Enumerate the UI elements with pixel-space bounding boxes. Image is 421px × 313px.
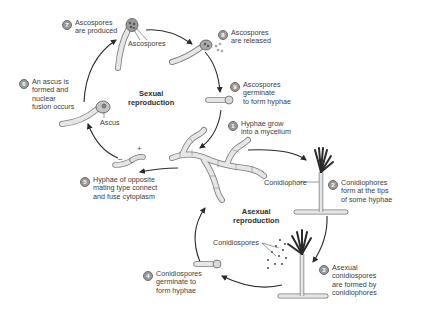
arrow-5-to-6 xyxy=(88,124,118,158)
step-number-badge: 8 xyxy=(218,30,228,40)
conidiophore-label: Conidiophore xyxy=(264,179,307,187)
minus-mating-sign: − xyxy=(118,156,123,164)
arrow-3-to-4 xyxy=(222,276,282,287)
arrow-8-to-9 xyxy=(205,52,220,92)
ascus-label: Ascus xyxy=(100,119,120,127)
step-3: 3 Asexual conidiospores are formed by co… xyxy=(319,264,377,297)
step-6: 6 An ascus is formed and nuclear fusion … xyxy=(19,78,74,111)
arrow-2-to-3 xyxy=(313,216,327,262)
step-9: 9 Ascospores germinate to form hyphae xyxy=(230,81,291,106)
step-description: Ascospores are released xyxy=(231,29,271,46)
asexual-reproduction-title: Asexual reproduction xyxy=(233,208,279,225)
plus-mating-sign: + xyxy=(137,145,142,153)
step-2: 2 Conidiophores form at the tips of some… xyxy=(328,179,392,204)
ascus-releasing-spores xyxy=(172,40,223,62)
step-description: Conidiophores form at the tips of some h… xyxy=(341,179,392,204)
fungal-life-cycle-diagram: − + Sexual reproduction Asexual reproduc… xyxy=(0,0,421,313)
step-number-badge: 9 xyxy=(230,82,240,92)
step-8: 8 Ascospores are released xyxy=(218,29,271,46)
step-description: Asexual conidiospores are formed by coni… xyxy=(332,264,377,297)
arrow-1-to-2 xyxy=(248,150,306,160)
step-number-badge: 5 xyxy=(80,177,90,187)
step-7: 7 Ascospores are produced xyxy=(62,19,117,36)
step-description: Ascospores are produced xyxy=(75,19,117,36)
step-description: Conidiospores germinate to form hyphae xyxy=(156,270,202,295)
arrow-1-to-5 xyxy=(140,168,178,172)
sexual-reproduction-title: Sexual reproduction xyxy=(128,90,174,107)
step-5: 5 Hyphae of opposite mating type connect… xyxy=(80,176,157,201)
step-description: Hyphae of opposite mating type connect a… xyxy=(93,176,157,201)
step-description: Ascospores germinate to form hyphae xyxy=(243,81,291,106)
step-number-badge: 6 xyxy=(19,79,29,89)
ascospores-label: Ascospores xyxy=(128,40,166,48)
mycelium xyxy=(172,130,264,200)
step-description: An ascus is formed and nuclear fusion oc… xyxy=(32,78,74,111)
step-4: 4 Conidiospores germinate to form hyphae xyxy=(143,270,202,295)
step-number-badge: 2 xyxy=(328,180,338,190)
step-number-badge: 3 xyxy=(319,265,329,275)
step-description: Hyphae grow into a mycelium xyxy=(241,120,291,137)
conidiospores-label: Conidiospores xyxy=(213,239,259,247)
step-number-badge: 1 xyxy=(228,121,238,131)
conidiophore-stage-3 xyxy=(262,230,326,296)
arrow-4-to-1 xyxy=(195,208,205,262)
arrow-6-to-7 xyxy=(84,40,116,102)
step-number-badge: 7 xyxy=(62,20,72,30)
step-1: 1 Hyphae grow into a mycelium xyxy=(228,120,291,137)
step-number-badge: 4 xyxy=(143,271,153,281)
